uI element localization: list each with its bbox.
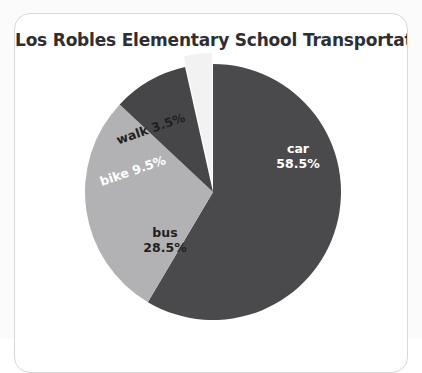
pie-chart: car 58.5% bus 28.5% bike 9.5% walk 3.5% xyxy=(15,14,408,373)
chart-card: Los Robles Elementary School Transportat… xyxy=(14,13,408,373)
pie-chart-svg xyxy=(15,14,408,373)
